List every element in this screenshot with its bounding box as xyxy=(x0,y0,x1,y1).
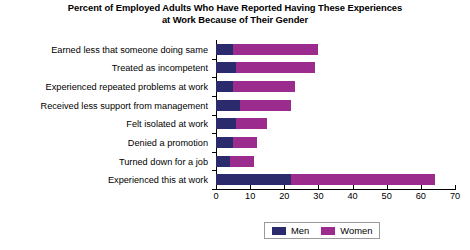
category-label: Treated as incompetent xyxy=(0,63,208,73)
bar-segment-women[interactable] xyxy=(230,156,254,167)
bar-segment-women[interactable] xyxy=(240,100,291,111)
bar-row[interactable] xyxy=(216,137,455,148)
y-axis-tick xyxy=(212,170,216,171)
legend-item-women[interactable]: Women xyxy=(321,226,372,236)
category-label: Denied a promotion xyxy=(0,138,208,148)
bar-segment-women[interactable] xyxy=(236,118,267,129)
x-axis-tick xyxy=(421,185,422,190)
bar-row[interactable] xyxy=(216,118,455,129)
bar-segment-men[interactable] xyxy=(216,81,233,92)
bar-segment-men[interactable] xyxy=(216,174,291,185)
bar-segment-women[interactable] xyxy=(291,174,434,185)
chart-title-line-1: Percent of Employed Adults Who Have Repo… xyxy=(28,2,442,14)
legend-label-women: Women xyxy=(340,226,372,236)
bar-row[interactable] xyxy=(216,44,455,55)
category-label: Experienced this at work xyxy=(0,175,208,185)
category-axis-labels: Earned less that someone doing sameTreat… xyxy=(0,40,208,189)
x-axis-tick xyxy=(318,185,319,190)
x-axis-tick-label: 0 xyxy=(201,191,231,202)
bar-segment-men[interactable] xyxy=(216,44,233,55)
x-axis-tick-label: 50 xyxy=(372,191,402,202)
legend-item-men[interactable]: Men xyxy=(272,226,309,236)
chart-container: Percent of Employed Adults Who Have Repo… xyxy=(0,0,470,250)
y-axis-tick xyxy=(212,152,216,153)
category-label: Received less support from management xyxy=(0,101,208,111)
x-axis-tick xyxy=(216,185,217,190)
x-axis-tick-label: 20 xyxy=(269,191,299,202)
x-axis-tick xyxy=(353,185,354,190)
x-axis-tick-label: 30 xyxy=(303,191,333,202)
legend-swatch-men xyxy=(272,227,286,235)
y-axis-tick xyxy=(212,133,216,134)
legend-swatch-women xyxy=(321,227,335,235)
bar-row[interactable] xyxy=(216,100,455,111)
chart-title-line-2: at Work Because of Their Gender xyxy=(28,14,442,26)
x-axis-tick-label: 40 xyxy=(338,191,368,202)
plot-area xyxy=(216,40,455,189)
bar-segment-women[interactable] xyxy=(233,44,318,55)
x-axis-tick xyxy=(250,185,251,190)
bar-row[interactable] xyxy=(216,81,455,92)
bar-segment-women[interactable] xyxy=(236,62,315,73)
y-axis-tick xyxy=(212,96,216,97)
bar-segment-men[interactable] xyxy=(216,156,230,167)
x-axis-tick xyxy=(455,185,456,190)
x-axis-tick xyxy=(387,185,388,190)
bar-segment-women[interactable] xyxy=(233,137,257,148)
chart-legend: Men Women xyxy=(264,222,380,239)
category-label: Earned less that someone doing same xyxy=(0,45,208,55)
bar-segment-men[interactable] xyxy=(216,137,233,148)
category-label: Experienced repeated problems at work xyxy=(0,82,208,92)
y-axis-tick xyxy=(212,115,216,116)
bar-segment-men[interactable] xyxy=(216,62,236,73)
bar-segment-men[interactable] xyxy=(216,100,240,111)
bar-row[interactable] xyxy=(216,156,455,167)
bar-segment-women[interactable] xyxy=(233,81,294,92)
y-axis-tick xyxy=(212,77,216,78)
y-axis-tick xyxy=(212,59,216,60)
x-axis-tick-label: 70 xyxy=(440,191,470,202)
bar-segment-men[interactable] xyxy=(216,118,236,129)
legend-label-men: Men xyxy=(291,226,309,236)
bar-row[interactable] xyxy=(216,62,455,73)
category-label: Felt isolated at work xyxy=(0,119,208,129)
chart-title: Percent of Employed Adults Who Have Repo… xyxy=(28,2,442,26)
x-axis-tick xyxy=(284,185,285,190)
category-label: Turned down for a job xyxy=(0,157,208,167)
x-axis-tick-label: 60 xyxy=(406,191,436,202)
x-axis-tick-label: 10 xyxy=(235,191,265,202)
bar-row[interactable] xyxy=(216,174,455,185)
